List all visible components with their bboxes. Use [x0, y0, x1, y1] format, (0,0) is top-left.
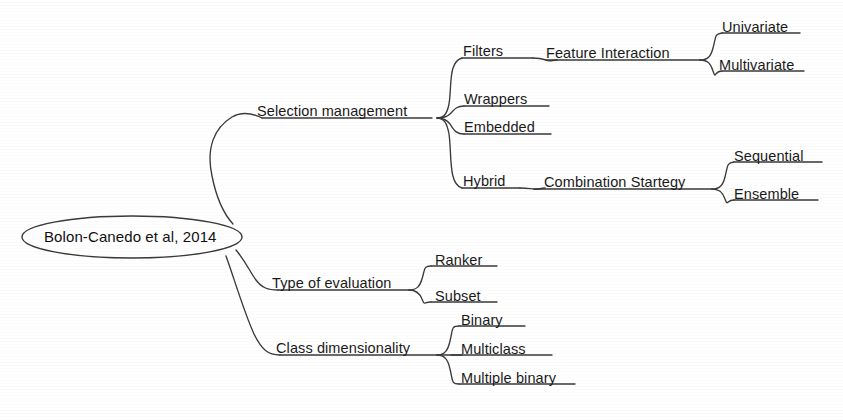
edge-evaluation-to-ranker	[409, 266, 431, 290]
edge-combination-to-ensemble	[712, 189, 734, 203]
node-sequential[interactable]: Sequential	[734, 149, 804, 164]
mindmap-canvas: Bolon-Canedo et al, 2014 Selection manag…	[0, 0, 843, 420]
edge-feature-interaction-to-univariate	[700, 33, 722, 60]
node-wrappers[interactable]: Wrappers	[464, 92, 527, 107]
mindmap-connectors	[0, 0, 843, 420]
node-ensemble[interactable]: Ensemble	[734, 187, 799, 202]
edge-root-to-selection-management	[210, 113, 262, 224]
node-selection-management[interactable]: Selection management	[257, 104, 407, 119]
node-class-dimensionality[interactable]: Class dimensionality	[276, 341, 410, 356]
edge-evaluation-to-subset	[409, 290, 431, 303]
edge-class-to-multiple-binary	[437, 355, 459, 384]
node-binary[interactable]: Binary	[461, 313, 503, 328]
node-feature-interaction[interactable]: Feature Interaction	[546, 46, 670, 61]
node-combination-strategy[interactable]: Combination Startegy	[544, 175, 685, 190]
node-multiclass[interactable]: Multiclass	[461, 342, 526, 357]
edge-root-to-class-dimensionality	[226, 256, 280, 355]
edge-selection-to-wrappers	[437, 106, 464, 118]
edge-combination-to-sequential	[712, 162, 734, 189]
edge-selection-to-embedded	[437, 118, 464, 134]
node-multiple-binary[interactable]: Multiple binary	[461, 371, 556, 386]
node-filters[interactable]: Filters	[463, 44, 503, 59]
edge-class-to-binary	[437, 326, 459, 355]
root-node-label[interactable]: Bolon-Canedo et al, 2014	[44, 229, 217, 244]
node-embedded[interactable]: Embedded	[464, 120, 535, 135]
node-subset[interactable]: Subset	[435, 289, 481, 304]
node-type-of-evaluation[interactable]: Type of evaluation	[272, 276, 392, 291]
node-multivariate[interactable]: Multivariate	[719, 58, 794, 73]
node-ranker[interactable]: Ranker	[435, 253, 482, 268]
edge-selection-to-hybrid	[437, 118, 462, 188]
node-hybrid[interactable]: Hybrid	[463, 174, 506, 189]
node-univariate[interactable]: Univariate	[722, 20, 788, 35]
edge-selection-to-filters	[437, 58, 462, 118]
